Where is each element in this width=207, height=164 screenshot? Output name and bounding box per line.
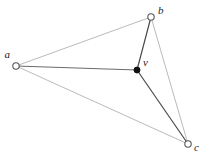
edge-v-c (137, 70, 188, 144)
graph-svg: a b c v (0, 0, 207, 164)
vertex-c-marker (185, 141, 191, 147)
vertex-label-a: a (5, 48, 11, 60)
edge-group-center-spokes (16, 17, 188, 144)
vertex-label-group: a b c v (5, 4, 200, 153)
vertex-b-marker (148, 14, 154, 20)
edge-a-b (16, 17, 151, 66)
vertex-label-c: c (194, 141, 199, 153)
edge-b-c (151, 17, 188, 144)
vertex-label-b: b (158, 4, 164, 16)
edge-a-c (16, 66, 188, 144)
edge-group-outer-triangle (16, 17, 188, 144)
graph-diagram-canvas: a b c v (0, 0, 207, 164)
vertex-label-v: v (143, 56, 148, 68)
vertex-v-marker (134, 67, 140, 73)
vertex-group (13, 14, 191, 147)
edge-a-v (16, 66, 137, 70)
vertex-a-marker (13, 63, 19, 69)
